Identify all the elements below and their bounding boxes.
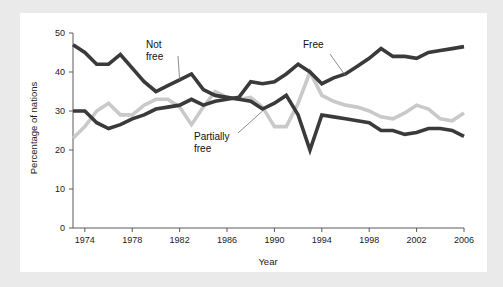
x-tick-label: 1998 [359,235,379,245]
x-axis-title: Year [258,256,277,267]
x-tick-label: 2002 [407,235,427,245]
line-chart: 01020304050 1974197819821986199019941998… [0,0,503,287]
x-tick-label: 1978 [122,235,142,245]
y-tick-label: 20 [55,145,65,155]
y-tick-label: 50 [55,28,65,38]
y-tick-label: 0 [60,223,65,233]
y-tick-labels: 01020304050 [55,28,65,233]
x-tick-marks [85,228,464,232]
partially-free-label-line: free [194,143,212,154]
x-tick-label: 1974 [75,235,95,245]
x-tick-label: 1986 [217,235,237,245]
x-tick-label: 1990 [264,235,284,245]
not-free-label-line: free [146,51,164,62]
partially-free-label-leader [238,111,263,133]
y-tick-marks [69,33,73,228]
y-tick-label: 40 [55,67,65,77]
y-tick-label: 30 [55,106,65,116]
y-axis-title: Percentage of nations [28,82,39,175]
not-free-label: Notfree [146,39,180,80]
partially-free-label-line: Partially [194,131,230,142]
axis-lines [73,33,464,228]
series-line-not-free [73,45,464,150]
x-tick-label: 2006 [454,235,474,245]
x-tick-label: 1994 [312,235,332,245]
x-tick-labels: 197419781982198619901994199820022006 [75,235,474,245]
not-free-label-line: Not [146,39,162,50]
free-label-leader [330,54,346,76]
data-series-group [73,45,464,150]
chart-root: 01020304050 1974197819821986199019941998… [0,0,503,287]
not-free-label-leader [178,56,180,80]
partially-free-label: Partiallyfree [194,111,263,154]
x-tick-label: 1982 [170,235,190,245]
free-label-line: Free [303,39,324,50]
y-tick-label: 10 [55,184,65,194]
